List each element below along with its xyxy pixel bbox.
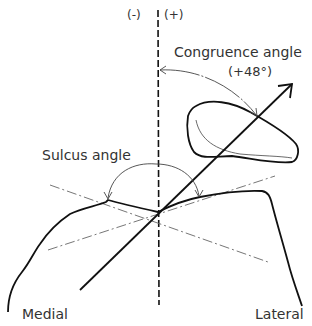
congruence-angle-label: Congruence angle	[174, 44, 302, 60]
lateral-facet-line	[48, 176, 275, 250]
patella-inner-line	[196, 120, 292, 158]
plus-label: (+)	[164, 8, 183, 22]
sulcus-angle-label: Sulcus angle	[42, 147, 131, 163]
lateral-label: Lateral	[255, 306, 304, 322]
femur-outline	[8, 191, 302, 312]
sulcus-angle-arc	[108, 164, 199, 198]
vertical-reference-line	[158, 10, 159, 305]
congruence-angle-value: (+48°)	[228, 64, 272, 79]
minus-label: (-)	[127, 8, 141, 22]
medial-label: Medial	[22, 306, 68, 322]
